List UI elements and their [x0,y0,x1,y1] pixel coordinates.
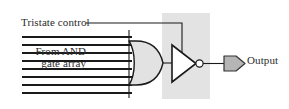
logic-diagram-canvas: Tristate control From AND gate array Out… [0,0,289,109]
inverter-bubble-icon [196,60,203,67]
label-from-and-gate-array-line2: gate array [24,57,86,69]
label-from-and-gate-array-line1: From AND [24,45,86,57]
label-tristate-control: Tristate control [21,16,90,28]
or-gate [129,41,163,85]
label-output: Output [247,54,278,66]
output-pad [224,56,245,71]
